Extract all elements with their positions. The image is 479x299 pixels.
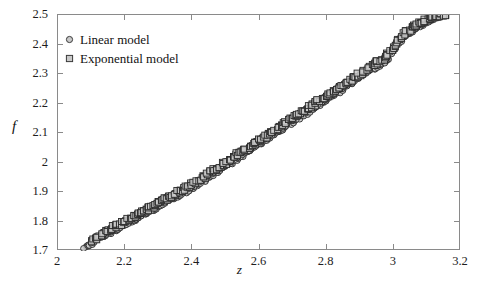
y-tick-label: 2.5	[2, 8, 48, 21]
legend-item-linear-model: Linear model	[62, 30, 179, 49]
y-tick-mark	[454, 73, 459, 74]
x-tick-mark	[326, 244, 327, 249]
y-tick-mark	[454, 103, 459, 104]
data-point	[314, 97, 320, 103]
y-tick-label: 1.8	[2, 215, 48, 228]
x-tick-mark	[259, 244, 260, 249]
y-tick-label: 2.3	[2, 67, 48, 80]
y-tick-label: 2.4	[2, 38, 48, 51]
y-tick-mark	[58, 132, 63, 133]
y-tick-mark	[58, 103, 63, 104]
y-tick-label: 2.2	[2, 97, 48, 110]
circle-marker-icon	[62, 35, 76, 44]
legend-item-exponential-model: Exponential model	[62, 49, 179, 68]
legend-label-exponential-model: Exponential model	[80, 51, 179, 67]
x-tick-mark	[393, 15, 394, 20]
y-tick-mark	[58, 191, 63, 192]
data-point	[354, 70, 360, 76]
y-tick-label: 1.9	[2, 185, 48, 198]
y-tick-mark	[454, 191, 459, 192]
chart-figure: f 1.71.81.922.12.22.32.42.5 22.22.42.62.…	[0, 0, 479, 299]
y-tick-label: 2	[2, 156, 48, 169]
x-tick-mark	[259, 15, 260, 20]
data-point	[443, 15, 449, 19]
x-tick-mark	[326, 15, 327, 20]
y-tick-mark	[58, 162, 63, 163]
y-tick-mark	[454, 162, 459, 163]
x-tick-mark	[124, 15, 125, 20]
y-tick-mark	[58, 73, 63, 74]
x-tick-mark	[393, 244, 394, 249]
x-tick-mark	[191, 15, 192, 20]
y-tick-mark	[454, 221, 459, 222]
x-tick-mark	[191, 244, 192, 249]
chart-legend: Linear model Exponential model	[62, 30, 179, 68]
y-tick-label: 2.1	[2, 126, 48, 139]
x-tick-mark	[124, 244, 125, 249]
legend-label-linear-model: Linear model	[80, 32, 150, 48]
y-tick-mark	[454, 132, 459, 133]
y-tick-mark	[58, 221, 63, 222]
square-marker-icon	[62, 54, 76, 63]
y-tick-mark	[454, 44, 459, 45]
x-axis-title: z	[0, 262, 479, 278]
